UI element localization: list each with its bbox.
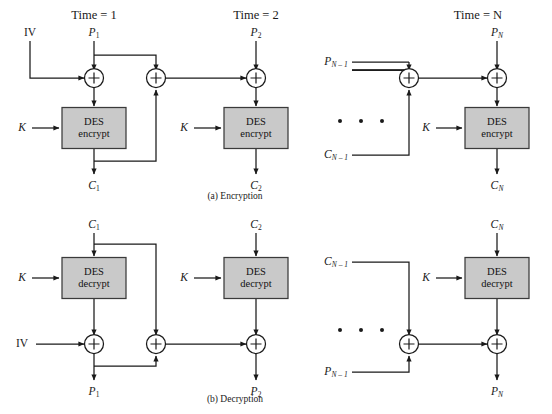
- encryption-ellipsis-dot-1: [338, 119, 342, 123]
- decryption-key-label-3: K: [422, 272, 430, 284]
- diagram-wiring: [0, 0, 552, 414]
- encryption-output-cn: CN: [491, 180, 504, 193]
- des-encrypt-block-2: DESencrypt: [240, 116, 272, 141]
- cbc-mode-figure: Time = 1 Time = 2 Time = N IV P1 P2 PN C…: [0, 0, 552, 414]
- des-encrypt-block-1: DESencrypt: [78, 116, 110, 141]
- encryption-input-p2: P2: [251, 27, 262, 40]
- decryption-tail-input-p-n-1: PN – 1: [324, 366, 347, 379]
- decryption-ellipsis-dot-2: [359, 328, 363, 332]
- decryption-tail-input-c-n-1: CN – 1: [324, 256, 348, 269]
- encryption-key-label-3: K: [422, 122, 430, 134]
- time-label-1: Time = 1: [71, 9, 117, 22]
- encryption-key-label-2: K: [180, 122, 188, 134]
- decryption-key-label-2: K: [180, 272, 188, 284]
- encryption-ellipsis-dot-3: [380, 119, 384, 123]
- des-decrypt-block-2: DESdecrypt: [240, 266, 272, 291]
- encryption-tail-input-p-n-1: PN – 1: [324, 56, 347, 69]
- decryption-ellipsis-dot-1: [338, 328, 342, 332]
- encryption-iv-label: IV: [24, 27, 36, 39]
- encryption-output-c1: C1: [88, 180, 100, 193]
- encryption-input-p1: P1: [89, 27, 100, 40]
- des-decrypt-block-1: DESdecrypt: [78, 266, 110, 291]
- decryption-iv-label: IV: [16, 338, 28, 350]
- panel-caption-encryption: (a) Encryption: [207, 192, 262, 202]
- decryption-output-pn: PN: [491, 386, 503, 399]
- decryption-output-p1: P1: [89, 386, 100, 399]
- encryption-ellipsis-dot-2: [359, 119, 363, 123]
- decryption-key-label-1: K: [18, 272, 26, 284]
- encryption-key-label-1: K: [18, 122, 26, 134]
- decryption-ellipsis-dot-3: [380, 328, 384, 332]
- time-label-n: Time = N: [454, 9, 502, 22]
- decryption-input-c1: C1: [88, 219, 100, 232]
- decryption-input-cn: CN: [491, 219, 504, 232]
- des-encrypt-block-n: DESencrypt: [481, 116, 513, 141]
- panel-caption-decryption: (b) Decryption: [207, 395, 263, 405]
- encryption-input-pn: PN: [491, 27, 503, 40]
- decryption-input-c2: C2: [250, 219, 262, 232]
- encryption-tail-input-c-n-1: CN – 1: [324, 149, 348, 162]
- time-label-2: Time = 2: [233, 9, 279, 22]
- des-decrypt-block-n: DESdecrypt: [481, 266, 513, 291]
